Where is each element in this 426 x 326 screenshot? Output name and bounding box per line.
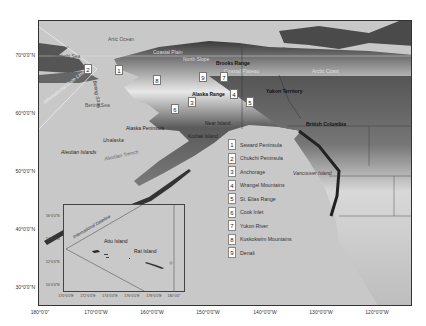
legend-number: 5 <box>228 193 236 204</box>
lat-tick-30n: 30°0'0"N <box>16 284 35 290</box>
lat-tick-70n: 70°0'0"N <box>16 52 35 58</box>
legend-number: 3 <box>228 166 236 177</box>
legend-label: Seward Peninsula <box>240 142 282 148</box>
marker-2[interactable]: 2 <box>84 64 92 74</box>
inset-lat-tick: 54°0'0"N <box>46 237 60 241</box>
inset-terrain <box>64 205 184 291</box>
chukchi-sea-label: Chukchi Sea <box>52 53 80 59</box>
legend-item: 8Kuskokwim Mountains <box>228 233 292 247</box>
aleutian-islands-label: Aleutian Islands <box>61 149 96 155</box>
coastal-plain-label: Coastal Plain <box>153 49 182 55</box>
legend-number: 6 <box>228 207 236 218</box>
lon-tick-150w: 150°0'0"W <box>196 309 219 315</box>
lat-tick-40n: 40°0'0"N <box>16 226 35 232</box>
marker-9[interactable]: 9 <box>199 72 207 82</box>
beaufort-sea-label: Beaufort Sea <box>262 46 291 52</box>
alaska-range-label: Alaska Range <box>192 91 225 97</box>
inset-map: International Dateline Attu Island Rat I… <box>63 204 185 292</box>
inset-lat-tick: 56°0'0"N <box>46 214 60 218</box>
lon-tick-170w: 170°0'0"W <box>84 309 107 315</box>
gulf-of-alaska-label: Gulf of Alaska <box>236 120 267 126</box>
inset-lon-tick: 174°0'0"E <box>102 294 117 298</box>
legend-number: 9 <box>228 247 236 258</box>
arctic-coast-label: Arctic Coast <box>312 68 339 74</box>
legend-label: Yukon River <box>240 223 268 229</box>
attu-island-label: Attu Island <box>104 238 128 244</box>
legend-number: 7 <box>228 220 236 231</box>
lat-tick-60n: 60°0'0"N <box>16 110 35 116</box>
near-island-label: Near Island <box>205 120 231 126</box>
kodiak-island-label: Kodiak Island <box>188 133 218 139</box>
legend-label: Denali <box>240 250 255 256</box>
legend-label: Cook Inlet <box>240 209 263 215</box>
legend-item: 1Seward Peninsula <box>228 138 292 152</box>
lon-tick-140w: 140°0'0"W <box>253 309 276 315</box>
inset-lat-tick: 52°0'0"N <box>46 260 60 264</box>
inset-lat-tick: 50°0'0"N <box>46 283 60 287</box>
coastal-plateau-label: Coastal Plateau <box>224 68 259 74</box>
brooks-range-label: Brooks Range <box>216 60 250 66</box>
legend-number: 1 <box>228 139 236 150</box>
legend-label: St. Elias Range <box>240 196 276 202</box>
legend-item: 3Anchorage <box>228 165 292 179</box>
marker-7[interactable]: 7 <box>220 72 228 82</box>
inset-lon-tick: 172°0'0"E <box>80 294 95 298</box>
legend-label: Kuskokwim Mountains <box>240 236 292 242</box>
legend-item: 2Chukchi Peninsula <box>228 152 292 166</box>
lon-tick-180: 180°0'0" <box>31 309 50 315</box>
legend-label: Chukchi Peninsula <box>240 155 283 161</box>
inset-lon-tick: 176°0'0"E <box>124 294 139 298</box>
inset-lon-tick: 178°0'0"E <box>146 294 161 298</box>
inset-lon-tick: 170°0'0"E <box>58 294 73 298</box>
marker-8[interactable]: 8 <box>153 75 161 85</box>
legend-item: 7Yukon River <box>228 219 292 233</box>
unalaska-label: Unalaska <box>103 137 124 143</box>
marker-3[interactable]: 3 <box>188 97 196 107</box>
inset-lon-tick: 180°0'0" <box>167 294 180 298</box>
legend-item: 4Wrangel Mountains <box>228 179 292 193</box>
legend-label: Wrangel Mountains <box>240 182 285 188</box>
legend-number: 2 <box>228 153 236 164</box>
yukon-territory-label: Yukon Territory <box>266 88 303 94</box>
legend-item: 9Denali <box>228 246 292 260</box>
legend-item: 5St. Elias Range <box>228 192 292 206</box>
lat-tick-50n: 50°0'0"N <box>16 168 35 174</box>
arctic-ocean-label: Artic Ocean <box>108 36 134 42</box>
legend-item: 6Cook Inlet <box>228 206 292 220</box>
marker-4[interactable]: 4 <box>230 89 238 99</box>
alaska-peninsula-label: Alaska Peninsula <box>126 125 164 131</box>
lon-tick-120w: 120°0'0"W <box>365 309 388 315</box>
marker-1[interactable]: 1 <box>115 65 123 75</box>
legend-label: Anchorage <box>240 169 265 175</box>
rat-island-label: Rat Island <box>134 248 157 254</box>
british-columbia-label: British Columbia <box>306 121 346 127</box>
north-slope-label: North Slope <box>183 56 209 62</box>
marker-6[interactable]: 6 <box>171 104 179 114</box>
legend-number: 8 <box>228 234 236 245</box>
marker-5[interactable]: 5 <box>246 97 254 107</box>
vancouver-island-label: Vancouver Island <box>293 170 331 176</box>
lon-tick-160w: 160°0'0"W <box>140 309 163 315</box>
map-legend: 1Seward Peninsula 2Chukchi Peninsula 3An… <box>228 138 292 260</box>
lon-tick-130w: 130°0'0"W <box>309 309 332 315</box>
legend-number: 4 <box>228 180 236 191</box>
